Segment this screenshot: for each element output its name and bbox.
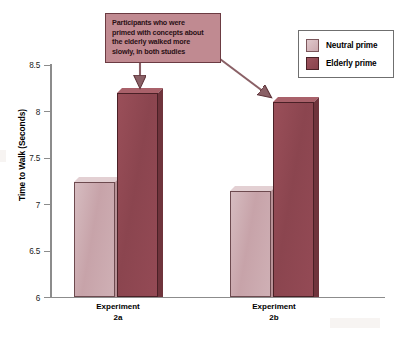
- callout-line-2: primed with concepts about: [112, 28, 215, 38]
- legend-label: Neutral prime: [326, 41, 377, 50]
- legend-swatch-icon: [306, 57, 319, 70]
- legend-item-neutral[interactable]: Neutral prime: [306, 36, 393, 54]
- legend-item-elderly[interactable]: Elderly prime: [306, 54, 393, 72]
- arrow-to-elderly-2b: [216, 56, 268, 95]
- legend: Neutral prime Elderly prime: [298, 30, 394, 78]
- callout-line-1: Participants who were: [112, 18, 215, 28]
- callout-box: Participants who were primed with concep…: [105, 13, 221, 63]
- legend-swatch-icon: [306, 39, 319, 52]
- callout-line-4: slowly, in both studies: [112, 47, 215, 57]
- callout-line-3: the elderly walked more: [112, 37, 215, 47]
- legend-label: Elderly prime: [326, 59, 377, 68]
- chart-canvas: Time to Walk (Seconds) 8.5 8 7.5 7 6.5 6…: [0, 0, 402, 344]
- callout-text: Participants who were primed with concep…: [112, 18, 215, 56]
